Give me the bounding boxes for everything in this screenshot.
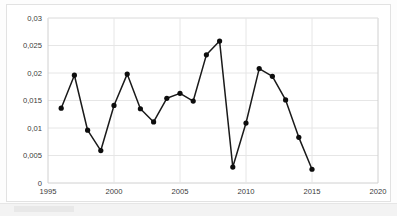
chart-screenshot: 00,0050,010,0150,020,0250,03 19952000200… <box>0 0 397 216</box>
data-point <box>98 148 103 153</box>
data-point <box>283 97 288 102</box>
svg-text:0,005: 0,005 <box>23 151 42 160</box>
line-chart: 00,0050,010,0150,020,0250,03 19952000200… <box>0 0 397 216</box>
bottom-strip <box>0 203 397 216</box>
data-point <box>270 74 275 79</box>
data-point <box>177 91 182 96</box>
svg-text:0,01: 0,01 <box>27 124 42 133</box>
svg-text:2015: 2015 <box>304 187 321 196</box>
horizontal-gridlines <box>48 18 378 183</box>
svg-text:0,03: 0,03 <box>27 14 42 23</box>
x-axis-tick-labels: 199520002005201020152020 <box>40 187 387 196</box>
data-point <box>138 106 143 111</box>
bottom-strip-ghost-text <box>14 206 74 212</box>
data-point <box>111 103 116 108</box>
svg-text:2005: 2005 <box>172 187 189 196</box>
svg-text:0,02: 0,02 <box>27 69 42 78</box>
svg-text:2010: 2010 <box>238 187 255 196</box>
svg-text:0,015: 0,015 <box>23 96 42 105</box>
data-point <box>59 106 64 111</box>
data-point <box>217 39 222 44</box>
data-point <box>230 164 235 169</box>
data-point <box>125 72 130 77</box>
data-point <box>257 66 262 71</box>
data-point <box>164 96 169 101</box>
data-point <box>151 119 156 124</box>
data-point <box>85 128 90 133</box>
y-axis-tick-labels: 00,0050,010,0150,020,0250,03 <box>23 14 42 188</box>
svg-text:2020: 2020 <box>370 187 387 196</box>
data-point-markers <box>59 39 315 172</box>
svg-text:2000: 2000 <box>106 187 123 196</box>
data-point <box>296 135 301 140</box>
data-point <box>243 120 248 125</box>
data-point <box>309 167 314 172</box>
svg-text:1995: 1995 <box>40 187 57 196</box>
svg-text:0,025: 0,025 <box>23 41 42 50</box>
data-point <box>191 98 196 103</box>
data-point <box>72 73 77 78</box>
data-point <box>204 52 209 57</box>
